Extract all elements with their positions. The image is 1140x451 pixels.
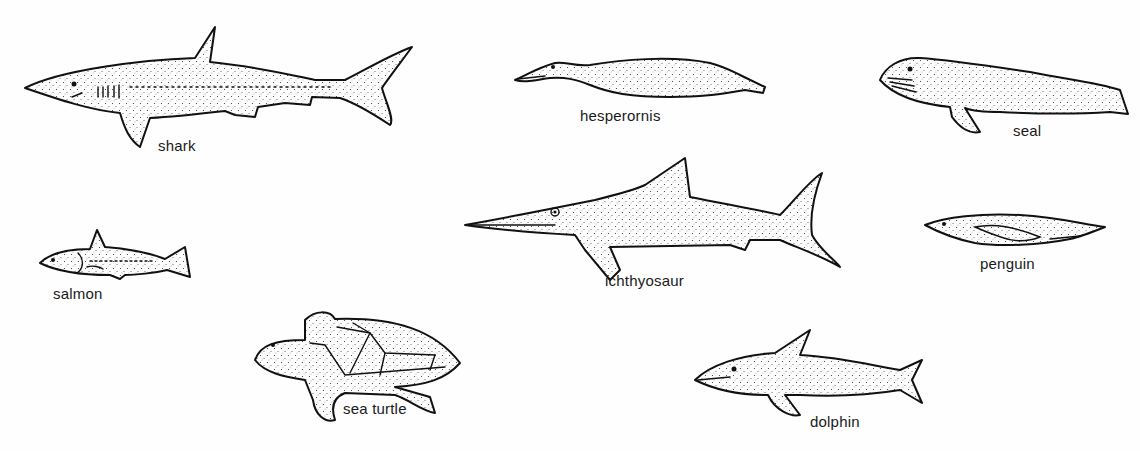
sea-turtle-figure: sea turtle: [245, 305, 475, 435]
hesperornis-figure: hesperornis: [510, 45, 780, 125]
hesperornis-label: hesperornis: [580, 107, 661, 124]
ichthyosaur-label: ichthyosaur: [605, 272, 684, 289]
illustration-canvas: shark hesperornis seal ichthyosaur: [0, 0, 1140, 451]
penguin-icon: [920, 205, 1120, 285]
shark-label: shark: [158, 137, 196, 154]
seal-icon: [870, 52, 1140, 152]
salmon-label: salmon: [53, 285, 103, 302]
sea-turtle-label: sea turtle: [343, 400, 407, 417]
salmon-figure: salmon: [35, 225, 205, 305]
penguin-figure: penguin: [920, 205, 1120, 285]
shark-icon: [20, 25, 420, 165]
dolphin-figure: dolphin: [690, 325, 940, 435]
seal-label: seal: [1013, 122, 1041, 139]
dolphin-label: dolphin: [810, 413, 860, 430]
shark-figure: shark: [20, 25, 420, 165]
seal-figure: seal: [870, 52, 1140, 152]
ichthyosaur-figure: ichthyosaur: [460, 155, 860, 295]
penguin-label: penguin: [980, 255, 1035, 272]
